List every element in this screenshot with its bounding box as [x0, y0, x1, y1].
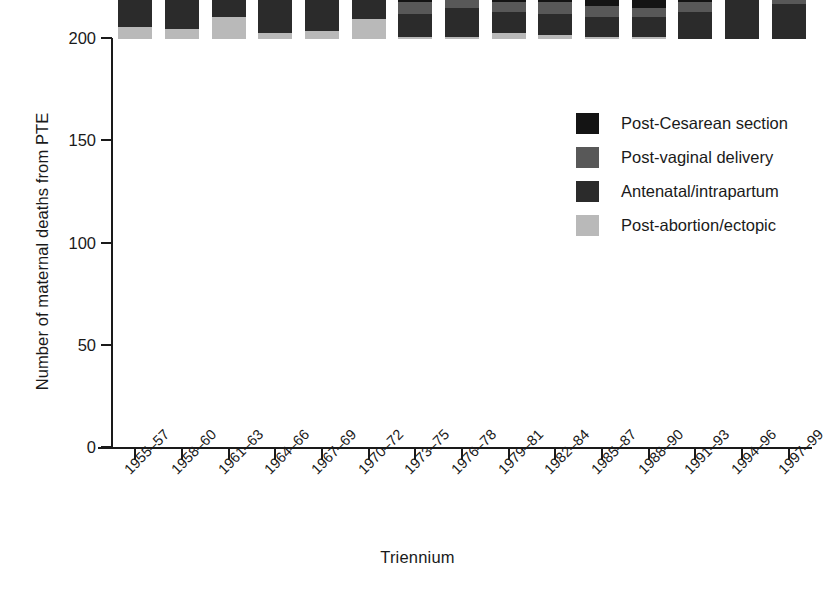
- bar-segment: [445, 0, 479, 8]
- bar-segment: [678, 12, 712, 39]
- bar-segment: [632, 0, 666, 8]
- y-tick-mark: [101, 242, 112, 244]
- x-tick-label: 1994–96: [728, 426, 779, 477]
- x-tick-label: 1976–78: [448, 426, 499, 477]
- bar-segment: [632, 17, 666, 37]
- y-tick-mark: [101, 446, 112, 448]
- bar[interactable]: [632, 0, 666, 39]
- bar[interactable]: [258, 0, 292, 39]
- bar-segment: [118, 0, 152, 27]
- bar[interactable]: [445, 0, 479, 39]
- bar-segment: [398, 14, 432, 36]
- bar-segment: [165, 29, 199, 39]
- bar[interactable]: [772, 0, 806, 39]
- x-tick-label: 1985–87: [588, 426, 639, 477]
- x-tick-label: 1961–63: [215, 426, 266, 477]
- bar[interactable]: [212, 0, 246, 39]
- bar-segment: [772, 4, 806, 39]
- y-tick-mark: [101, 37, 112, 39]
- x-tick-label: 1982–84: [541, 426, 592, 477]
- x-tick-label: 1955–57: [121, 426, 172, 477]
- legend-label: Post-vaginal delivery: [621, 148, 773, 167]
- bar-segment: [398, 37, 432, 39]
- bar-segment: [585, 6, 619, 16]
- x-tick-label: 1997–99: [775, 426, 826, 477]
- y-tick-label: 200: [68, 30, 96, 47]
- bar-segment: [445, 8, 479, 37]
- y-tick-mark: [101, 344, 112, 346]
- y-tick-label: 0: [87, 439, 96, 456]
- bar-segment: [352, 19, 386, 39]
- legend-item[interactable]: Post-abortion/ectopic: [576, 208, 788, 242]
- bar-segment: [538, 35, 572, 39]
- y-tick-mark: [101, 139, 112, 141]
- y-tick-label: 150: [68, 132, 96, 149]
- bar-segment: [398, 2, 432, 14]
- legend-label: Antenatal/intrapartum: [621, 182, 779, 201]
- x-tick-label: 1973–75: [401, 426, 452, 477]
- bar-segment: [538, 2, 572, 14]
- bar-segment: [632, 8, 666, 16]
- bar-segment: [352, 0, 386, 19]
- bar[interactable]: [585, 0, 619, 39]
- bar-segment: [212, 17, 246, 39]
- bar-segment: [305, 31, 339, 39]
- bar[interactable]: [538, 0, 572, 39]
- bar-segment: [585, 17, 619, 37]
- legend-swatch: [576, 181, 599, 202]
- bar-segment: [632, 37, 666, 39]
- x-tick-label: 1979–81: [495, 426, 546, 477]
- y-tick-label: 50: [78, 337, 96, 354]
- y-axis-line: [111, 38, 113, 449]
- bar-segment: [445, 37, 479, 39]
- legend-item[interactable]: Post-vaginal delivery: [576, 140, 788, 174]
- legend-item[interactable]: Post-Cesarean section: [576, 106, 788, 140]
- plot-area: 050100150200 1955–571958–601961–631964–6…: [112, 38, 812, 448]
- bar[interactable]: [725, 0, 759, 39]
- bar-segment: [165, 0, 199, 29]
- legend-swatch: [576, 215, 599, 236]
- y-tick-label: 100: [68, 234, 96, 251]
- x-tick-label: 1958–60: [168, 426, 219, 477]
- bar-segment: [678, 2, 712, 12]
- x-axis-title: Triennium: [0, 548, 835, 567]
- legend-label: Post-abortion/ectopic: [621, 216, 776, 235]
- bar[interactable]: [678, 0, 712, 39]
- bar-segment: [305, 0, 339, 31]
- bar-segment: [492, 33, 526, 39]
- stacked-bar-chart: Number of maternal deaths from PTE 05010…: [0, 0, 835, 598]
- bar[interactable]: [118, 0, 152, 39]
- x-tick-label: 1970–72: [355, 426, 406, 477]
- legend-swatch: [576, 113, 599, 134]
- bar-segment: [538, 14, 572, 34]
- bar-segment: [492, 2, 526, 12]
- x-tick-label: 1988–90: [635, 426, 686, 477]
- legend-swatch: [576, 147, 599, 168]
- bar-segment: [585, 37, 619, 39]
- chart-legend: Post-Cesarean sectionPost-vaginal delive…: [576, 106, 788, 242]
- legend-label: Post-Cesarean section: [621, 114, 788, 133]
- bar-segment: [725, 0, 759, 39]
- bar[interactable]: [305, 0, 339, 39]
- bar-segment: [258, 33, 292, 39]
- x-tick-label: 1964–66: [261, 426, 312, 477]
- bar[interactable]: [165, 0, 199, 39]
- bar-segment: [492, 12, 526, 32]
- x-tick-label: 1967–69: [308, 426, 359, 477]
- x-tick-label: 1991–93: [681, 426, 732, 477]
- bar[interactable]: [492, 0, 526, 39]
- bar[interactable]: [398, 0, 432, 39]
- bar-segment: [258, 0, 292, 33]
- bar-segment: [118, 27, 152, 39]
- bar[interactable]: [352, 0, 386, 39]
- y-axis-title: Number of maternal deaths from PTE: [33, 42, 52, 462]
- bar-segment: [212, 0, 246, 17]
- legend-item[interactable]: Antenatal/intrapartum: [576, 174, 788, 208]
